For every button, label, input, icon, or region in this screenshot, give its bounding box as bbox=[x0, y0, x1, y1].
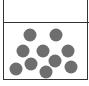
particle bbox=[37, 45, 50, 58]
particle bbox=[40, 66, 53, 79]
particle bbox=[24, 29, 37, 42]
particles-layer bbox=[0, 0, 89, 86]
particle bbox=[62, 45, 75, 58]
particle bbox=[25, 58, 38, 71]
particle bbox=[17, 45, 30, 58]
particle bbox=[65, 61, 78, 74]
particle bbox=[50, 29, 63, 42]
particle bbox=[49, 55, 62, 68]
particle bbox=[10, 63, 23, 76]
